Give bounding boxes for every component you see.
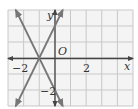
x-tick-label-2: 2 <box>83 62 90 75</box>
x-tick-label-neg2: −2 <box>12 62 28 75</box>
x-axis-label: x <box>124 60 131 73</box>
origin-label: O <box>58 45 67 58</box>
y-tick-label-neg2: −2 <box>40 85 56 98</box>
coordinate-graph: y O x −2 2 −2 <box>0 0 138 109</box>
y-axis-label: y <box>46 9 54 22</box>
